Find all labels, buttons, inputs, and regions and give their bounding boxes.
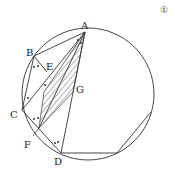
label-E: E — [46, 61, 53, 72]
label-C: C — [10, 109, 18, 120]
figure-number: ① — [160, 5, 168, 15]
circle — [22, 28, 154, 160]
label-B: B — [26, 47, 33, 58]
label-D: D — [54, 156, 62, 167]
label-G: G — [76, 84, 84, 95]
label-F: F — [24, 139, 31, 150]
segment-PQ — [117, 112, 151, 153]
geometry-diagram: A B C D E F G ① — [0, 0, 175, 171]
label-A: A — [80, 20, 89, 31]
